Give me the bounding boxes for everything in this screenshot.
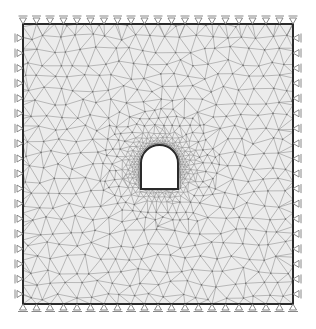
roller-support-icon (15, 229, 23, 238)
roller-support-icon (293, 214, 301, 223)
roller-support-icon (15, 199, 23, 208)
roller-support-icon (293, 64, 301, 73)
roller-support-icon (15, 109, 23, 118)
roller-support-icon (221, 16, 230, 24)
roller-support-icon (15, 64, 23, 73)
roller-support-icon (293, 139, 301, 148)
bottom-pin-supports (18, 304, 298, 312)
roller-support-icon (15, 274, 23, 283)
roller-support-icon (293, 274, 301, 283)
roller-support-icon (127, 16, 136, 24)
roller-support-icon (293, 199, 301, 208)
roller-support-icon (15, 290, 23, 299)
pin-support-icon (234, 304, 244, 312)
roller-support-icon (293, 109, 301, 118)
roller-support-icon (208, 16, 217, 24)
roller-support-icon (15, 94, 23, 103)
roller-support-icon (289, 16, 298, 24)
roller-support-icon (235, 16, 244, 24)
roller-support-icon (181, 16, 190, 24)
pin-support-icon (99, 304, 109, 312)
roller-support-icon (262, 16, 271, 24)
roller-support-icon (15, 79, 23, 88)
roller-support-icon (167, 16, 176, 24)
pin-support-icon (18, 304, 28, 312)
roller-support-icon (15, 214, 23, 223)
pin-support-icon (261, 304, 271, 312)
pin-support-icon (288, 304, 298, 312)
roller-support-icon (59, 16, 68, 24)
roller-support-icon (293, 79, 301, 88)
roller-support-icon (15, 259, 23, 268)
roller-support-icon (293, 34, 301, 43)
pin-support-icon (194, 304, 204, 312)
roller-support-icon (113, 16, 122, 24)
roller-support-icon (248, 16, 257, 24)
roller-support-icon (293, 49, 301, 58)
pin-support-icon (126, 304, 136, 312)
right-roller-supports (293, 34, 301, 299)
pin-support-icon (221, 304, 231, 312)
pin-support-icon (207, 304, 217, 312)
roller-support-icon (293, 124, 301, 133)
roller-support-icon (293, 259, 301, 268)
roller-support-icon (15, 124, 23, 133)
roller-support-icon (154, 16, 163, 24)
top-roller-supports (19, 16, 298, 24)
roller-support-icon (15, 34, 23, 43)
pin-support-icon (140, 304, 150, 312)
roller-support-icon (46, 16, 55, 24)
pin-support-icon (32, 304, 42, 312)
pin-support-icon (45, 304, 55, 312)
roller-support-icon (140, 16, 149, 24)
pin-support-icon (180, 304, 190, 312)
pin-support-icon (113, 304, 123, 312)
pin-support-icon (248, 304, 258, 312)
fem-mesh-diagram (0, 0, 316, 329)
pin-support-icon (153, 304, 163, 312)
roller-support-icon (100, 16, 109, 24)
roller-support-icon (293, 244, 301, 253)
roller-support-icon (32, 16, 41, 24)
roller-support-icon (293, 94, 301, 103)
roller-support-icon (15, 244, 23, 253)
roller-support-icon (293, 169, 301, 178)
pin-support-icon (72, 304, 82, 312)
pin-support-icon (275, 304, 285, 312)
roller-support-icon (15, 184, 23, 193)
pin-support-icon (59, 304, 69, 312)
tunnel-lining (141, 145, 178, 189)
roller-support-icon (293, 184, 301, 193)
roller-support-icon (293, 229, 301, 238)
roller-support-icon (293, 290, 301, 299)
roller-support-icon (19, 16, 28, 24)
roller-support-icon (73, 16, 82, 24)
pin-support-icon (86, 304, 96, 312)
pin-support-icon (167, 304, 177, 312)
roller-support-icon (194, 16, 203, 24)
roller-support-icon (86, 16, 95, 24)
roller-support-icon (15, 49, 23, 58)
roller-support-icon (275, 16, 284, 24)
roller-support-icon (15, 139, 23, 148)
roller-support-icon (293, 154, 301, 163)
roller-support-icon (15, 169, 23, 178)
roller-support-icon (15, 154, 23, 163)
left-roller-supports (15, 34, 23, 299)
